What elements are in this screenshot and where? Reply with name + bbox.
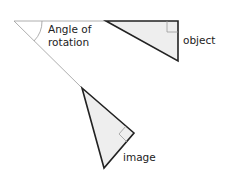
rotation-diagram — [0, 0, 226, 181]
angle-arc — [34, 21, 42, 41]
angle-of-rotation-label: Angle of rotation — [48, 23, 91, 49]
object-label: object — [183, 34, 215, 47]
angle-label-line-2: rotation — [48, 36, 91, 49]
angle-label-line-1: Angle of — [48, 23, 91, 36]
image-label: image — [123, 151, 156, 164]
